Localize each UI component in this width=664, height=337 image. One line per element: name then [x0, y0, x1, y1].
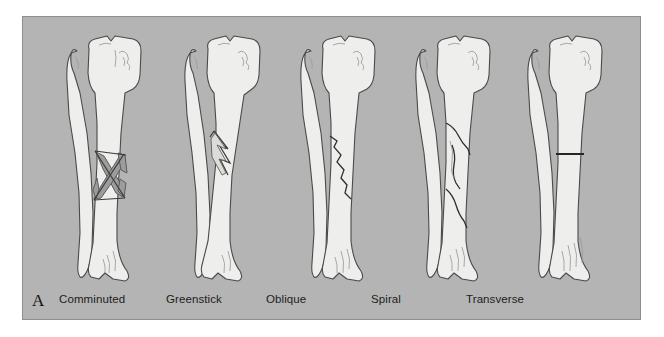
fibula-bone [416, 50, 442, 278]
label-transverse: Transverse [466, 293, 524, 305]
label-spiral: Spiral [371, 293, 401, 305]
specimen-comminuted [47, 23, 167, 291]
illustration-panel: A Comminuted Greenstick Oblique Spiral T… [22, 16, 641, 320]
specimen-greenstick [166, 23, 286, 291]
label-greenstick: Greenstick [166, 293, 222, 305]
panel-letter: A [32, 291, 44, 311]
tibia-bone [201, 36, 260, 281]
fibula-bone [301, 50, 327, 278]
tibia-bone [437, 36, 490, 281]
specimen-transverse [508, 23, 628, 291]
tibia-bone [549, 36, 602, 281]
tibia-bone [88, 36, 141, 281]
label-comminuted: Comminuted [59, 293, 125, 305]
specimen-oblique [281, 23, 401, 291]
fibula-bone [67, 50, 93, 278]
tibia-bone [322, 36, 375, 281]
fracture-types-figure: A Comminuted Greenstick Oblique Spiral T… [0, 0, 664, 337]
fibula-bone [528, 50, 554, 278]
label-oblique: Oblique [266, 293, 306, 305]
specimen-spiral [396, 23, 516, 291]
fibula-bone [185, 50, 210, 278]
specimen-label-row: A Comminuted Greenstick Oblique Spiral T… [23, 293, 640, 319]
